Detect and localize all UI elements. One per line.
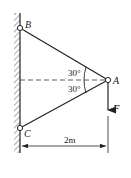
dimension-label: 2m <box>64 135 76 145</box>
pin-C <box>17 125 22 130</box>
pin-B <box>17 25 22 30</box>
pin-A <box>105 77 110 82</box>
bar-AB <box>20 28 108 80</box>
wall-hatching <box>14 13 20 153</box>
truss-diagram: B C A F 30° 30° 2m <box>0 0 131 178</box>
label-B: B <box>25 19 31 30</box>
label-F: F <box>112 103 120 114</box>
label-C: C <box>24 128 31 139</box>
angle-label-upper: 30° <box>68 68 81 78</box>
diagram-svg: B C A F 30° 30° 2m <box>0 0 131 178</box>
bar-AC <box>20 80 108 128</box>
angle-label-lower: 30° <box>68 84 81 94</box>
label-A: A <box>112 75 120 86</box>
